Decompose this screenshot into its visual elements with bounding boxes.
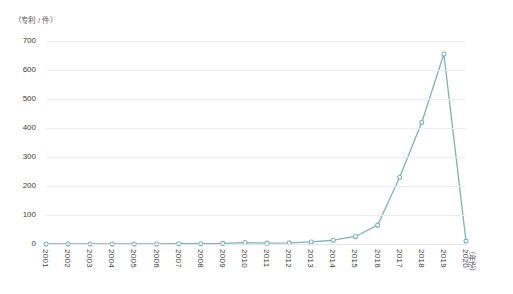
y-axis-tick-label: 600: [0, 65, 36, 74]
y-axis-tick-label: 300: [0, 152, 36, 161]
y-axis-unit-label: （专利 / 件）: [14, 14, 57, 25]
data-point-marker: [398, 175, 402, 179]
plot-area: [46, 41, 466, 244]
x-axis-tick-label: 2007: [174, 249, 183, 268]
y-axis-tick-label: 0: [0, 239, 36, 248]
gridline-100: [46, 215, 466, 216]
data-point-marker: [353, 234, 357, 238]
x-axis-tick-label: 2010: [240, 249, 249, 268]
y-axis-tick-label: 400: [0, 123, 36, 132]
x-axis-tick-label: 2004: [107, 249, 116, 268]
data-point-marker: [442, 52, 446, 56]
x-axis-tick-label: 2011: [262, 249, 271, 267]
data-point-marker: [331, 238, 335, 242]
x-axis-tick-label: 2002: [63, 249, 72, 268]
x-axis-tick-label: 2016: [373, 249, 382, 268]
x-axis-tick-label: 2003: [85, 249, 94, 268]
y-axis-tick-label: 700: [0, 36, 36, 45]
y-axis-tick-label: 100: [0, 210, 36, 219]
x-axis-tick-label: 2012: [284, 249, 293, 268]
data-point-marker: [376, 223, 380, 227]
x-axis-tick-label: 2013: [306, 249, 315, 268]
x-axis-unit-label: （年份）: [467, 247, 478, 275]
gridline-500: [46, 99, 466, 100]
gridline-300: [46, 157, 466, 158]
x-axis-tick-label: 2017: [395, 249, 404, 268]
gridline-600: [46, 70, 466, 71]
x-axis-tick-label: 2005: [129, 249, 138, 268]
x-axis-tick-label: 2009: [218, 249, 227, 268]
x-axis-tick-label: 2018: [417, 249, 426, 268]
data-point-marker: [464, 239, 468, 243]
x-axis-tick-label: 2015: [350, 249, 359, 268]
x-axis-tick-label: 2019: [439, 249, 448, 268]
x-axis-tick-label: 2006: [152, 249, 161, 268]
data-point-marker: [420, 120, 424, 124]
gridline-400: [46, 128, 466, 129]
x-axis-baseline: [46, 244, 466, 245]
x-axis-tick-label: 2014: [328, 249, 337, 268]
patent-trend-line-chart: （专利 / 件） 0100200300400500600700 20012002…: [0, 0, 513, 294]
y-axis-tick-label: 500: [0, 94, 36, 103]
y-axis-tick-label: 200: [0, 181, 36, 190]
gridline-200: [46, 186, 466, 187]
series-line-patent-count: [46, 41, 466, 244]
gridline-700: [46, 41, 466, 42]
x-axis-tick-label: 2001: [41, 249, 50, 268]
x-axis-tick-label: 2008: [196, 249, 205, 268]
